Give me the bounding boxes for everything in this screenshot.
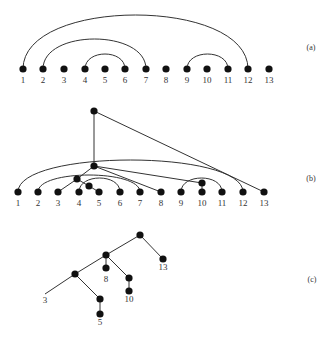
node-label: 5 <box>103 75 108 85</box>
arc-2-7 <box>43 39 146 69</box>
edge-M-Q <box>94 166 202 183</box>
node-5 <box>101 65 108 72</box>
node-label: 4 <box>77 198 82 208</box>
node-8 <box>157 188 164 195</box>
node-Q <box>198 179 205 186</box>
node-D <box>96 295 103 302</box>
edge-root-13 <box>140 235 163 259</box>
edge-B-D <box>75 274 100 299</box>
node-6 <box>116 188 123 195</box>
arc-1-12 <box>23 15 248 69</box>
node-label: 6 <box>118 198 123 208</box>
edge-root-A <box>106 235 140 255</box>
node-B <box>71 270 78 277</box>
node-4 <box>75 188 82 195</box>
diagram-canvas: 12345678910111213(a) 12345678910111213(b… <box>0 0 333 339</box>
node-2 <box>39 65 46 72</box>
node-label: 12 <box>244 75 253 85</box>
arc-1-12 <box>18 160 243 192</box>
panel-label: (a) <box>307 43 316 52</box>
node-label: 11 <box>224 75 233 85</box>
node-9 <box>183 65 190 72</box>
node-label: 6 <box>123 75 128 85</box>
node-label: 2 <box>41 75 46 85</box>
node-T <box>90 107 97 114</box>
node-5 <box>95 188 102 195</box>
node-8 <box>102 264 109 271</box>
node-label: 9 <box>179 198 184 208</box>
node-label: 7 <box>144 75 149 85</box>
node-label: 3 <box>62 75 67 85</box>
node-4 <box>81 65 88 72</box>
node-6 <box>121 65 128 72</box>
node-label: 5 <box>97 198 102 208</box>
node-R <box>85 182 92 189</box>
node-C <box>125 274 132 281</box>
node-11 <box>224 65 231 72</box>
node-9 <box>177 188 184 195</box>
node-13 <box>265 65 272 72</box>
panel-c-tree: 1381035(c) <box>43 231 317 327</box>
node-8 <box>162 65 169 72</box>
node-label: 13 <box>159 262 169 272</box>
node-12 <box>244 65 251 72</box>
node-label: 10 <box>198 198 208 208</box>
node-label: 10 <box>125 294 135 304</box>
node-label: 1 <box>16 198 21 208</box>
node-label: 12 <box>239 198 248 208</box>
node-label: 13 <box>260 198 270 208</box>
edge-A-B <box>75 255 106 274</box>
node-label: 2 <box>36 198 41 208</box>
node-M <box>90 162 97 169</box>
panel-a-arc-diagram: 12345678910111213(a) <box>19 15 315 85</box>
node-3 <box>54 188 61 195</box>
node-1 <box>14 188 21 195</box>
node-label: 9 <box>185 75 190 85</box>
node-label: 8 <box>159 198 164 208</box>
node-label: 10 <box>203 75 213 85</box>
edge-B-3 <box>45 274 75 294</box>
node-10 <box>198 188 205 195</box>
node-7 <box>142 65 149 72</box>
node-10 <box>203 65 210 72</box>
node-label: 1 <box>21 75 26 85</box>
node-A <box>102 251 109 258</box>
node-label: 4 <box>83 75 88 85</box>
node-11 <box>218 188 225 195</box>
node-13 <box>260 188 267 195</box>
node-label: 8 <box>164 75 169 85</box>
panel-b-tree-over-arcs: 12345678910111213(b) <box>14 107 316 208</box>
node-label: 13 <box>265 75 275 85</box>
panel-label: (c) <box>308 275 317 284</box>
node-label: 8 <box>104 274 109 284</box>
node-1 <box>19 65 26 72</box>
node-label: 11 <box>218 198 227 208</box>
node-root <box>136 231 143 238</box>
node-label: 3 <box>43 295 48 305</box>
node-label: 3 <box>56 198 61 208</box>
node-12 <box>239 188 246 195</box>
node-P <box>73 175 80 182</box>
node-label: 7 <box>138 198 143 208</box>
edge-M-8 <box>94 166 161 192</box>
node-label: 5 <box>98 317 103 327</box>
edge-A-C <box>106 255 129 278</box>
panel-label: (b) <box>306 174 316 183</box>
node-7 <box>136 188 143 195</box>
node-3 <box>60 65 67 72</box>
diagram-figure: 12345678910111213(a) 12345678910111213(b… <box>0 0 333 339</box>
node-2 <box>34 188 41 195</box>
